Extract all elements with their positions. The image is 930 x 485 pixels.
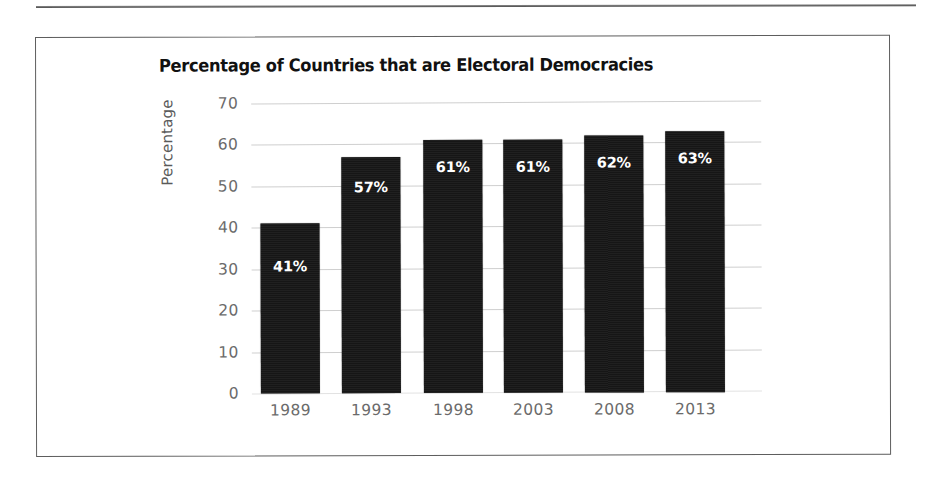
y-tick-label-40: 40 — [186, 218, 238, 236]
y-tick-label-10: 10 — [187, 343, 239, 361]
gridline-70 — [251, 100, 761, 104]
bar-label-2013: 63% — [665, 150, 724, 166]
x-tick-label-1993: 1993 — [337, 401, 406, 419]
bar-2013[interactable] — [665, 131, 725, 392]
y-tick-label-30: 30 — [187, 260, 239, 278]
y-tick-label-70: 70 — [186, 94, 238, 112]
bar-chart: Percentage of Countries that are Elector… — [36, 36, 892, 458]
y-tick-label-60: 60 — [186, 135, 238, 153]
bar-label-2003: 61% — [503, 159, 562, 175]
x-tick-label-1989: 1989 — [256, 401, 325, 419]
bar-label-1989: 41% — [261, 258, 320, 274]
bar-label-1998: 61% — [423, 159, 482, 175]
y-tick-label-20: 20 — [187, 301, 239, 319]
x-tick-label-2013: 2013 — [661, 400, 730, 418]
x-tick-label-2003: 2003 — [499, 401, 568, 419]
x-tick-label-1998: 1998 — [419, 401, 488, 419]
y-tick-label-50: 50 — [186, 177, 238, 195]
plot-area: 70 60 50 40 30 20 10 0 41% 57% 61% 61% 6… — [36, 36, 892, 458]
bar-1989[interactable] — [260, 223, 319, 393]
x-tick-label-2008: 2008 — [580, 400, 649, 418]
bar-1998[interactable] — [423, 140, 483, 393]
bar-2003[interactable] — [503, 140, 563, 393]
chart-frame: Percentage of Countries that are Elector… — [35, 35, 891, 457]
page-top-rule — [36, 4, 916, 8]
bar-2008[interactable] — [584, 135, 644, 392]
bar-label-2008: 62% — [584, 154, 643, 170]
y-tick-label-0: 0 — [187, 384, 239, 402]
bar-label-1993: 57% — [341, 179, 400, 195]
